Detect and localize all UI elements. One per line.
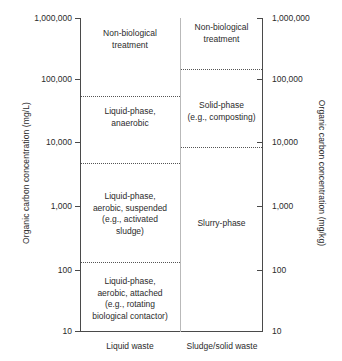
right-axis-line	[262, 18, 263, 332]
boundary-right-0	[181, 69, 262, 70]
tick-label-right-3: 1,000	[272, 202, 293, 211]
tick-label-left-1: 100,000	[41, 75, 72, 84]
tick-label-left-4: 100	[58, 266, 72, 275]
tick-mark-right-3	[257, 206, 263, 207]
category-label-sludge-solid-waste: Sludge/solid waste	[181, 341, 263, 351]
tick-mark-left-1	[75, 79, 81, 80]
region-label-right-0: Non-biological treatment	[181, 22, 262, 45]
region-label-left-3: Liquid-phase, aerobic, attached (e.g., r…	[80, 276, 180, 322]
left-axis-title: Organic carbon concentration (mg/L)	[21, 83, 31, 263]
region-label-left-0: Non-biological treatment	[80, 28, 180, 51]
region-label-right-2: Slurry-phase	[181, 218, 262, 230]
tick-mark-left-2	[75, 142, 81, 143]
bottom-axis-line	[80, 331, 263, 332]
tick-label-right-5: 10	[272, 327, 281, 336]
region-label-left-2: Liquid-phase, aerobic, suspended (e.g., …	[80, 191, 180, 237]
region-label-right-1: Solid-phase (e.g., composting)	[181, 100, 262, 123]
tick-label-right-0: 1,000,000	[272, 14, 310, 23]
tick-mark-right-2	[257, 142, 263, 143]
tick-mark-right-0	[257, 18, 263, 19]
plot-area: 1,000,0001,000,000100,000100,00010,00010…	[80, 18, 263, 332]
category-label-liquid-waste: Liquid waste	[80, 341, 180, 351]
tick-label-right-2: 10,000	[272, 138, 298, 147]
chart-figure: Organic carbon concentration (mg/L) Orga…	[0, 0, 342, 361]
tick-label-right-1: 100,000	[272, 75, 303, 84]
tick-label-left-0: 1,000,000	[34, 14, 72, 23]
tick-mark-left-0	[75, 18, 81, 19]
right-axis-title: Organic carbon concentration (mg/kg)	[317, 83, 327, 263]
tick-mark-right-1	[257, 79, 263, 80]
tick-label-right-4: 100	[272, 266, 286, 275]
boundary-left-1	[81, 163, 180, 164]
tick-label-left-3: 1,000	[51, 202, 72, 211]
region-label-left-1: Liquid-phase, anaerobic	[80, 106, 180, 129]
column-divider	[180, 18, 181, 332]
boundary-right-1	[181, 147, 262, 148]
boundary-left-2	[81, 262, 180, 263]
tick-label-left-5: 10	[63, 327, 72, 336]
tick-mark-right-4	[257, 270, 263, 271]
tick-mark-left-5	[75, 331, 81, 332]
tick-label-left-2: 10,000	[46, 138, 72, 147]
tick-mark-right-5	[257, 331, 263, 332]
tick-mark-left-4	[75, 270, 81, 271]
boundary-left-0	[81, 96, 180, 97]
